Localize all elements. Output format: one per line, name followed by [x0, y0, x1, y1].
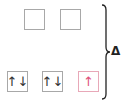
spin-up-arrow-icon: ↑ [7, 75, 18, 88]
lower-orbital-3: ↑ [78, 71, 99, 92]
spin-down-arrow-icon: ↓ [53, 75, 64, 88]
spin-down-arrow-icon: ↓ [18, 75, 29, 88]
upper-orbital-2 [60, 9, 81, 30]
lower-orbital-1: ↑ ↓ [7, 71, 28, 92]
splitting-energy-label: Δ [111, 44, 120, 58]
spin-up-arrow-icon: ↑ [42, 75, 53, 88]
spin-up-arrow-icon: ↑ [83, 75, 94, 88]
upper-orbital-1 [24, 9, 45, 30]
lower-orbital-2: ↑ ↓ [42, 71, 63, 92]
